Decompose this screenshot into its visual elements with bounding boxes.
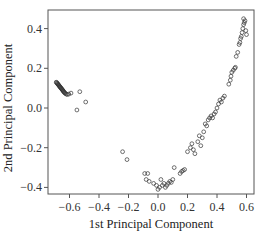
data-point (196, 140, 200, 144)
data-point (190, 142, 194, 146)
data-point (234, 65, 238, 69)
x-tick-label: 0.4 (210, 200, 225, 214)
x-tick-label: −0.6 (59, 200, 81, 214)
data-points (54, 17, 248, 192)
x-axis: −0.6−0.4−0.20.00.20.40.6 (59, 194, 254, 214)
data-point (228, 78, 232, 82)
x-tick-label: 0.6 (239, 200, 254, 214)
data-point (78, 90, 82, 94)
x-tick-label: −0.4 (88, 200, 110, 214)
data-point (199, 144, 203, 148)
data-point (193, 152, 197, 156)
data-point (200, 136, 204, 140)
data-point (240, 31, 244, 35)
x-tick-label: 0.0 (151, 200, 166, 214)
y-tick-label: 0.4 (27, 22, 42, 36)
data-point (147, 180, 151, 184)
data-point (192, 148, 196, 152)
data-point (159, 178, 163, 182)
x-axis-label: 1st Principal Component (89, 217, 214, 231)
data-point (234, 55, 238, 59)
y-tick-label: 0.0 (27, 101, 42, 115)
data-point (125, 158, 129, 162)
data-point (227, 82, 231, 86)
data-point (75, 108, 79, 112)
data-point (186, 150, 190, 154)
data-point (236, 51, 240, 55)
data-point (244, 29, 248, 33)
y-tick-label: −0.2 (20, 141, 42, 155)
data-point (172, 166, 176, 170)
data-point (215, 106, 219, 110)
x-tick-label: −0.2 (118, 200, 140, 214)
y-axis: −0.4−0.20.00.20.4 (20, 22, 48, 195)
pca-scatter-plot: −0.6−0.4−0.20.00.20.40.6 −0.4−0.20.00.20… (0, 0, 262, 236)
y-tick-label: 0.2 (27, 61, 42, 75)
data-point (202, 130, 206, 134)
data-point (245, 33, 249, 37)
data-point (229, 74, 233, 78)
data-point (121, 150, 125, 154)
data-point (84, 100, 88, 104)
x-tick-label: 0.2 (180, 200, 195, 214)
y-tick-label: −0.4 (20, 180, 42, 194)
y-axis-label: 2nd Principal Component (1, 43, 15, 172)
